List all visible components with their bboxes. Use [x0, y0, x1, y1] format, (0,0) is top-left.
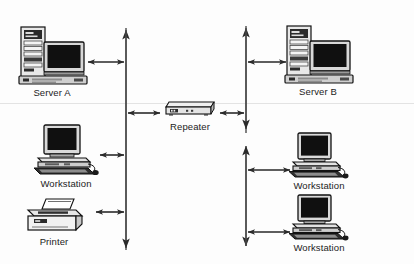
network-topology-diagram: Server A Workstation	[0, 0, 414, 264]
workstation-desktop-icon	[286, 194, 352, 242]
node-label-workstation-right-bottom: Workstation	[286, 242, 352, 253]
server-tower-icon	[280, 24, 356, 86]
node-server-a[interactable]: Server A	[14, 25, 90, 98]
node-workstation-right-top[interactable]: Workstation	[286, 132, 352, 191]
node-label-server-a: Server A	[14, 87, 90, 98]
node-repeater[interactable]: Repeater	[162, 100, 218, 132]
workstation-desktop-icon	[30, 124, 102, 178]
node-server-b[interactable]: Server B	[280, 24, 356, 97]
printer-icon	[18, 198, 90, 236]
node-label-workstation-left: Workstation	[30, 178, 102, 189]
node-label-repeater: Repeater	[162, 121, 218, 132]
node-printer[interactable]: Printer	[18, 198, 90, 247]
repeater-box-icon	[162, 100, 218, 120]
node-label-printer: Printer	[18, 236, 90, 247]
workstation-desktop-icon	[286, 132, 352, 180]
server-tower-icon	[14, 25, 90, 87]
node-label-workstation-right-top: Workstation	[286, 180, 352, 191]
node-label-server-b: Server B	[280, 86, 356, 97]
node-workstation-right-bottom[interactable]: Workstation	[286, 194, 352, 253]
node-workstation-left[interactable]: Workstation	[30, 124, 102, 189]
